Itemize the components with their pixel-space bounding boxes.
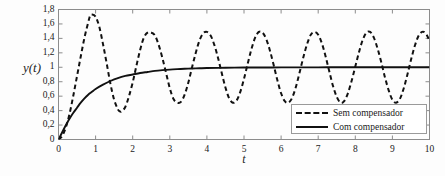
x-tick-label: 2 [118, 144, 148, 154]
chart-legend: Sem compensador Com compensador [291, 104, 427, 134]
y-tick-label: 1,6 [17, 18, 55, 28]
x-axis-label: t [222, 152, 266, 167]
legend-item-com-compensador: Com compensador [292, 120, 426, 134]
x-tick-label: 1 [81, 144, 111, 154]
legend-label: Com compensador [333, 122, 405, 132]
y-tick-label: 1,4 [17, 32, 55, 42]
figure-container: y(t) t 00,20,40,60,811,21,41,61,8 012345… [0, 0, 445, 176]
y-tick-label: 0 [17, 134, 55, 144]
y-tick-label: 1,2 [17, 47, 55, 57]
y-tick-label: 0,8 [17, 76, 55, 86]
y-tick-label: 0,4 [17, 105, 55, 115]
x-tick-label: 5 [229, 144, 259, 154]
x-tick-label: 0 [44, 144, 74, 154]
legend-label: Sem compensador [333, 108, 403, 118]
x-tick-label: 6 [266, 144, 296, 154]
x-tick-label: 3 [155, 144, 185, 154]
x-tick-label: 7 [303, 144, 333, 154]
x-tick-label: 8 [340, 144, 370, 154]
x-tick-label: 9 [377, 144, 407, 154]
y-tick-label: 1,8 [17, 4, 55, 14]
x-tick-label: 10 [415, 144, 445, 154]
y-tick-label: 1 [17, 61, 55, 71]
solid-line-swatch-icon [296, 122, 328, 132]
legend-item-sem-compensador: Sem compensador [292, 106, 426, 120]
x-tick-label: 4 [192, 144, 222, 154]
y-tick-label: 0,2 [17, 119, 55, 129]
dashed-line-swatch-icon [296, 108, 328, 118]
y-tick-label: 0,6 [17, 90, 55, 100]
